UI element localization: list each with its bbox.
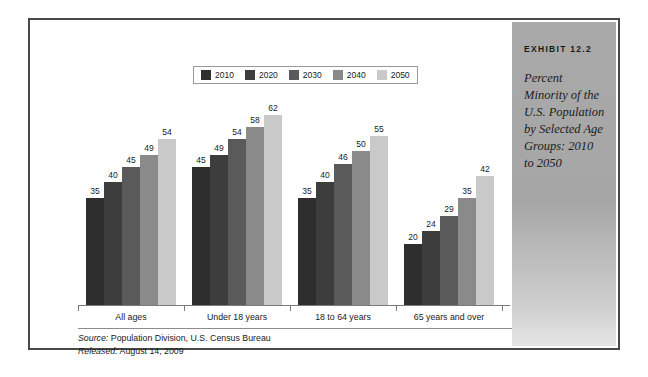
bar[interactable] — [228, 139, 246, 305]
legend-label: 2010 — [215, 70, 234, 80]
bar-group: 2024293542 — [404, 90, 494, 305]
exhibit-number-label: EXHIBIT 12.2 — [524, 44, 606, 54]
chart-legend: 20102020203020402050 — [193, 66, 418, 84]
axis-tick — [78, 305, 79, 311]
category-label: 18 to 64 years — [290, 312, 396, 322]
bar-value-label: 35 — [90, 186, 99, 196]
bar-value-label: 49 — [214, 143, 223, 153]
bar-column[interactable]: 35 — [298, 90, 316, 305]
bar[interactable] — [334, 164, 352, 305]
legend-swatch-icon — [333, 70, 343, 80]
bar-value-label: 42 — [480, 164, 489, 174]
bar-value-label: 54 — [232, 127, 241, 137]
bar-value-label: 50 — [356, 139, 365, 149]
released-line: Released: August 14, 2009 — [78, 345, 518, 358]
bar-group-bars: 3540454954 — [86, 90, 176, 305]
bar-column[interactable]: 20 — [404, 90, 422, 305]
legend-item-2050[interactable]: 2050 — [377, 70, 410, 80]
bar[interactable] — [210, 155, 228, 306]
bar-column[interactable]: 40 — [104, 90, 122, 305]
bar-plot: 3540454954454954586235404650552024293542 — [78, 90, 498, 305]
bar-group: 3540465055 — [298, 90, 388, 305]
bar[interactable] — [104, 182, 122, 305]
released-prefix: Released: — [78, 346, 118, 356]
bar-column[interactable]: 58 — [246, 90, 264, 305]
bar[interactable] — [370, 136, 388, 305]
legend-item-2020[interactable]: 2020 — [245, 70, 278, 80]
bar-column[interactable]: 54 — [228, 90, 246, 305]
bar-value-label: 46 — [338, 152, 347, 162]
bar-column[interactable]: 35 — [86, 90, 104, 305]
bar[interactable] — [476, 176, 494, 305]
bar[interactable] — [86, 198, 104, 306]
x-axis-line — [78, 305, 510, 306]
bar-column[interactable]: 35 — [458, 90, 476, 305]
bar-value-label: 55 — [374, 124, 383, 134]
legend-label: 2050 — [391, 70, 410, 80]
released-text: August 14, 2009 — [118, 346, 184, 356]
bar-value-label: 45 — [126, 155, 135, 165]
bar-value-label: 40 — [320, 170, 329, 180]
bar-group-bars: 2024293542 — [404, 90, 494, 305]
bar-column[interactable]: 49 — [140, 90, 158, 305]
bar-column[interactable]: 42 — [476, 90, 494, 305]
bar[interactable] — [140, 155, 158, 306]
chart-area: 20102020203020402050 3540454954454954586… — [60, 40, 540, 368]
exhibit-caption-panel: EXHIBIT 12.2 Percent Minority of the U.S… — [512, 22, 616, 346]
bar-column[interactable]: 45 — [192, 90, 210, 305]
legend-swatch-icon — [245, 70, 255, 80]
category-label: Under 18 years — [184, 312, 290, 322]
legend-swatch-icon — [377, 70, 387, 80]
bar-column[interactable]: 45 — [122, 90, 140, 305]
bar-value-label: 35 — [462, 186, 471, 196]
footer-divider — [78, 328, 540, 329]
bar[interactable] — [192, 167, 210, 305]
bar[interactable] — [352, 151, 370, 305]
legend-item-2040[interactable]: 2040 — [333, 70, 366, 80]
bar[interactable] — [316, 182, 334, 305]
legend-swatch-icon — [201, 70, 211, 80]
bar[interactable] — [404, 244, 422, 305]
bar-group: 4549545862 — [192, 90, 282, 305]
bar-column[interactable]: 24 — [422, 90, 440, 305]
bar-group-bars: 3540465055 — [298, 90, 388, 305]
bar-value-label: 49 — [144, 143, 153, 153]
legend-item-2030[interactable]: 2030 — [289, 70, 322, 80]
legend-label: 2020 — [259, 70, 278, 80]
bar-column[interactable]: 62 — [264, 90, 282, 305]
bar-value-label: 24 — [426, 219, 435, 229]
bar-column[interactable]: 46 — [334, 90, 352, 305]
bar-group-bars: 4549545862 — [192, 90, 282, 305]
bar[interactable] — [458, 198, 476, 306]
bar-column[interactable]: 54 — [158, 90, 176, 305]
bar[interactable] — [158, 139, 176, 305]
bar[interactable] — [422, 231, 440, 305]
bar[interactable] — [122, 167, 140, 305]
bar-column[interactable]: 49 — [210, 90, 228, 305]
bar-group: 3540454954 — [86, 90, 176, 305]
bar[interactable] — [298, 198, 316, 306]
bar-value-label: 58 — [250, 115, 259, 125]
category-label: 65 years and over — [396, 312, 502, 322]
bar[interactable] — [264, 115, 282, 305]
bar[interactable] — [440, 216, 458, 305]
source-text: Population Division, U.S. Census Bureau — [108, 333, 270, 343]
bar-column[interactable]: 55 — [370, 90, 388, 305]
bar-column[interactable]: 40 — [316, 90, 334, 305]
bar-value-label: 35 — [302, 186, 311, 196]
source-block: Source: Population Division, U.S. Census… — [78, 332, 518, 357]
axis-tick — [502, 305, 503, 311]
source-line: Source: Population Division, U.S. Census… — [78, 332, 518, 345]
legend-swatch-icon — [289, 70, 299, 80]
bar[interactable] — [246, 127, 264, 305]
bar-value-label: 45 — [196, 155, 205, 165]
bar-value-label: 40 — [108, 170, 117, 180]
bar-column[interactable]: 50 — [352, 90, 370, 305]
bar-value-label: 62 — [268, 103, 277, 113]
legend-item-2010[interactable]: 2010 — [201, 70, 234, 80]
bar-column[interactable]: 29 — [440, 90, 458, 305]
legend-label: 2040 — [347, 70, 366, 80]
bar-value-label: 54 — [162, 127, 171, 137]
legend-label: 2030 — [303, 70, 322, 80]
axis-tick — [290, 305, 291, 311]
